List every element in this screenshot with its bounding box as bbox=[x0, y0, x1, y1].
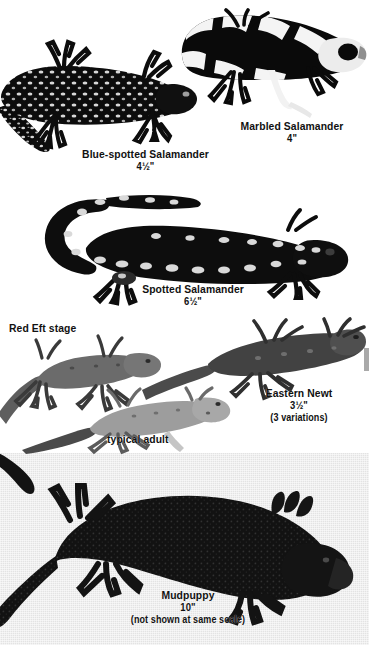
label-name: Marbled Salamander bbox=[238, 120, 346, 133]
label-size: 3½" bbox=[249, 400, 350, 412]
label-name: Eastern Newt bbox=[249, 387, 350, 400]
salamander-plate: Blue-spotted Salamander 4½" bbox=[0, 0, 369, 645]
caption-text: Red Eft stage bbox=[9, 322, 99, 335]
label-size: 4" bbox=[238, 133, 346, 145]
label-name: Mudpuppy bbox=[121, 589, 256, 602]
label-spotted-salamander: Spotted Salamander 6½" bbox=[139, 283, 247, 308]
label-size: 10" bbox=[121, 602, 256, 614]
label-size: 6½" bbox=[139, 296, 247, 308]
label-blue-spotted-salamander: Blue-spotted Salamander 4½" bbox=[80, 148, 211, 173]
label-eastern-newt: Eastern Newt 3½" (3 variations) bbox=[249, 387, 350, 423]
caption-text: typical adult bbox=[107, 433, 197, 446]
label-note: (not shown at same scale) bbox=[121, 614, 256, 625]
caption-red-eft-stage: Red Eft stage bbox=[9, 322, 99, 335]
specimen-marbled-salamander bbox=[176, 10, 366, 122]
label-name: Blue-spotted Salamander bbox=[80, 148, 211, 161]
label-size: 4½" bbox=[80, 161, 211, 173]
label-note: (3 variations) bbox=[249, 412, 350, 423]
label-marbled-salamander: Marbled Salamander 4" bbox=[238, 120, 346, 145]
label-mudpuppy: Mudpuppy 10" (not shown at same scale) bbox=[121, 589, 256, 625]
label-name: Spotted Salamander bbox=[139, 283, 247, 296]
caption-typical-adult: typical adult bbox=[107, 433, 197, 446]
specimen-blue-spotted-salamander bbox=[0, 36, 199, 161]
